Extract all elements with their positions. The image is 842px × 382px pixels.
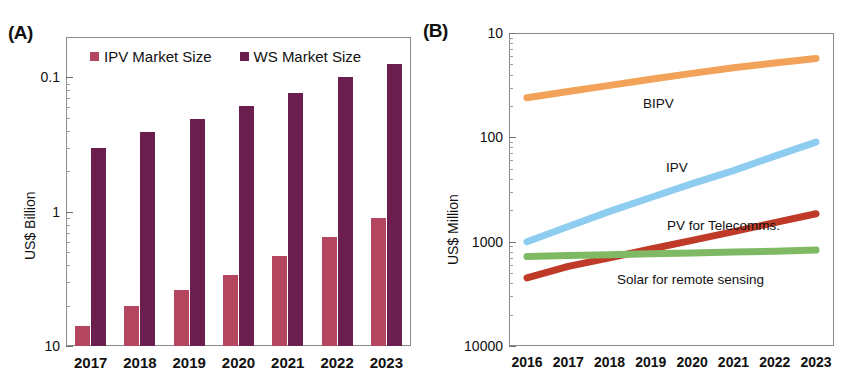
series-line-solar-for-remote-sensing [527,250,816,256]
panel-a-y-minor-tick [66,90,70,91]
bar-ipv-2018 [124,306,139,346]
bar-ipv-2017 [75,326,90,346]
panel-a-x-tick-label: 2020 [222,354,255,371]
panel-a-y-minor-tick [66,282,70,283]
panel-a-y-tick-mark [66,77,73,78]
panel-a-y-minor-tick [66,218,70,219]
panel-b: (B) US$ Million 10000100010010 201620172… [421,0,842,382]
panel-a-y-tick-label: 0.1 [10,69,60,85]
panel-a-y-minor-tick [66,107,70,108]
panel-a: (A) US$ Billion IPV Market Size WS Marke… [0,0,421,382]
bar-ws-2017 [91,148,106,346]
bar-ipv-2021 [272,256,287,346]
bar-ipv-2020 [223,275,238,346]
legend-item-ws: WS Market Size [240,48,362,65]
bar-ws-2023 [387,64,402,347]
panel-a-y-minor-tick [66,131,70,132]
panel-a-y-minor-tick [66,265,70,266]
panel-a-y-axis-label: US$ Billion [22,192,38,260]
legend-swatch-icon-ws [240,52,249,61]
panel-a-y-minor-tick [66,171,70,172]
bar-ws-2018 [140,132,155,346]
bar-ipv-2019 [174,290,189,346]
panel-a-y-minor-tick [66,306,70,307]
bar-ws-2022 [338,77,353,346]
panel-a-x-tick-label: 2021 [271,354,304,371]
figure-container: (A) US$ Billion IPV Market Size WS Marke… [0,0,842,382]
panel-a-y-minor-tick [66,118,70,119]
series-annotation-pv-for-telecomms: PV for Telecomms. [667,218,780,233]
panel-a-x-tick-label: 2017 [74,354,107,371]
bar-ws-2020 [239,106,254,346]
legend-label-ws: WS Market Size [254,48,362,65]
panel-a-y-minor-tick [66,233,70,234]
panel-a-y-minor-tick [66,252,70,253]
panel-a-y-tick-mark [66,346,73,347]
panel-a-y-minor-tick [66,84,70,85]
panel-a-x-tick-label: 2018 [123,354,156,371]
legend-item-ipv: IPV Market Size [90,48,212,65]
panel-a-y-tick-label: 1 [10,204,60,220]
series-annotation-ipv: IPV [666,160,688,175]
legend-swatch-icon-ipv [90,52,99,61]
legend-label-ipv: IPV Market Size [104,48,212,65]
panel-a-y-minor-tick [66,98,70,99]
panel-a-y-minor-tick [66,148,70,149]
series-annotation-bipv: BIPV [643,96,674,111]
bar-ipv-2022 [322,237,337,346]
panel-b-series-lines [421,0,842,382]
bar-ws-2021 [288,93,303,346]
series-annotation-solar-for-remote-sensing: Solar for remote sensing [617,272,764,287]
panel-a-y-tick-mark [66,212,73,213]
bar-ipv-2023 [371,218,386,346]
panel-a-y-tick-label: 10 [10,338,60,354]
panel-a-legend: IPV Market Size WS Market Size [90,48,361,65]
panel-a-x-tick-label: 2019 [173,354,206,371]
panel-a-y-minor-tick [66,242,70,243]
bar-ws-2019 [190,119,205,346]
panel-a-y-minor-tick [66,225,70,226]
panel-a-x-tick-label: 2023 [370,354,403,371]
panel-a-x-tick-label: 2022 [320,354,353,371]
series-line-bipv [527,58,816,97]
panel-a-letter: (A) [8,22,33,44]
